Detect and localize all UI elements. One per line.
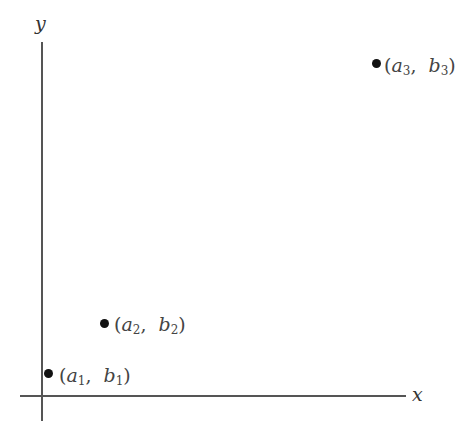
point-2 (100, 319, 109, 328)
x-axis-label: x (412, 383, 423, 405)
y-axis-label: y (35, 12, 46, 34)
point-2-label: (a2, b2) (114, 313, 186, 337)
y-axis (41, 42, 43, 421)
point-1-label: (a1, b1) (59, 364, 131, 388)
point-3 (372, 59, 381, 68)
x-axis (20, 395, 406, 397)
point-1 (44, 369, 53, 378)
point-3-label: (a3, b3) (384, 54, 456, 78)
